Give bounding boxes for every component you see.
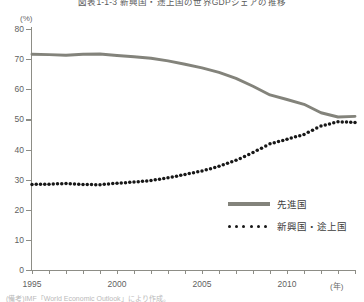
legend-dot bbox=[228, 225, 231, 228]
legend-label-emerging: 新興国・途上国 bbox=[277, 219, 347, 233]
series-plot-area bbox=[0, 0, 364, 302]
legend-dot bbox=[242, 225, 245, 228]
series-line-emerging bbox=[30, 120, 357, 186]
legend-dot bbox=[235, 225, 238, 228]
series-line-advanced bbox=[32, 54, 355, 117]
legend-item-emerging: 新興国・途上国 bbox=[228, 215, 360, 237]
legend-item-advanced: 先進国 bbox=[228, 193, 360, 215]
source-note: (備考)IMF「World Economic Outlook」により作成。 bbox=[6, 294, 170, 302]
legend-label-advanced: 先進国 bbox=[277, 197, 307, 211]
chart-legend: 先進国 新興国・途上国 bbox=[228, 193, 360, 237]
legend-dot bbox=[250, 225, 253, 228]
legend-dot bbox=[264, 225, 267, 228]
source-note-clipped: (備考)IMF「World Economic Outlook」により作成。 bbox=[0, 294, 364, 302]
gdp-share-line-chart: 図表1-1-3 新興国・途上国の世界GDPシェアの推移 (%) (年) 8070… bbox=[0, 0, 364, 302]
legend-swatch-solid-line-icon bbox=[228, 199, 270, 209]
legend-dot bbox=[257, 225, 260, 228]
legend-swatch-dotted-line-icon bbox=[228, 221, 270, 231]
